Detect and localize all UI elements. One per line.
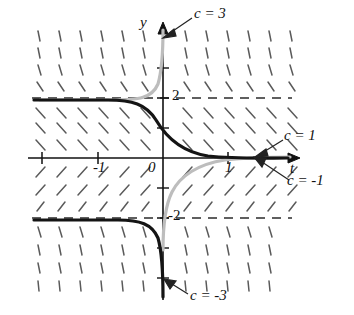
leader-cm1	[262, 162, 289, 180]
curve-c1	[34, 100, 288, 158]
tick-label-t-1: 1	[225, 159, 233, 176]
curve-label-cm1: c = -1	[287, 172, 324, 189]
leader-cm3-arrow	[164, 279, 176, 289]
y-axis-label: y	[140, 14, 147, 31]
leader-c1-arrow	[255, 149, 268, 157]
tick-label-y-2: 2	[172, 87, 180, 104]
tick-label-t-neg1: -1	[93, 159, 106, 176]
slope-field-plot	[0, 0, 354, 315]
curve-label-c3: c = 3	[194, 5, 226, 22]
solution-curves-dark	[34, 100, 288, 297]
leader-cm1-arrow	[254, 157, 266, 167]
origin-label: 0	[148, 159, 156, 176]
slope-field-figure: y t 0 -1 1 2 -2 c = 3 c = 1 c = -1 c = -…	[0, 0, 354, 315]
tick-label-y-neg2: -2	[168, 207, 181, 224]
curve-label-c1: c = 1	[284, 127, 316, 144]
curve-label-cm3: c = -3	[190, 287, 227, 304]
